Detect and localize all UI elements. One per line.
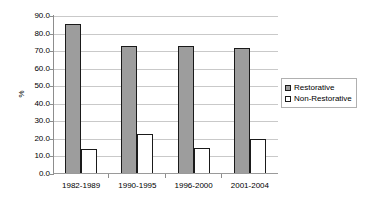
x-axis-category-label: 1982-1989 xyxy=(53,182,109,190)
legend-item[interactable]: Non-Restorative xyxy=(285,93,352,104)
x-axis-tick xyxy=(165,174,166,178)
bar-nonrestorative[interactable] xyxy=(250,139,266,174)
y-axis-tick xyxy=(49,69,54,70)
y-axis-tick xyxy=(49,16,54,17)
bar-restorative[interactable] xyxy=(178,46,194,174)
bar-nonrestorative[interactable] xyxy=(137,134,153,174)
bar-group xyxy=(109,16,165,174)
bar-restorative[interactable] xyxy=(234,48,250,174)
bar-nonrestorative[interactable] xyxy=(81,149,97,174)
legend: RestorativeNon-Restorative xyxy=(281,78,357,108)
legend-item[interactable]: Restorative xyxy=(285,82,352,93)
y-axis-tick-label: 0.0 xyxy=(20,170,50,178)
y-axis-tick-label: 60.0 xyxy=(20,65,50,73)
x-axis-baseline xyxy=(53,173,278,174)
y-axis-tick-label: 50.0 xyxy=(20,82,50,90)
legend-swatch-icon xyxy=(285,96,291,102)
bar-group xyxy=(166,16,222,174)
bar-group xyxy=(53,16,109,174)
y-axis-tick xyxy=(49,51,54,52)
legend-item-label: Non-Restorative xyxy=(294,95,352,103)
y-axis-tick xyxy=(49,121,54,122)
y-axis-tick xyxy=(49,139,54,140)
y-axis-tick-label: 10.0 xyxy=(20,152,50,160)
y-axis-tick-label: 80.0 xyxy=(20,30,50,38)
y-axis-tick xyxy=(49,86,54,87)
y-axis-tick xyxy=(49,104,54,105)
y-axis-tick-label: 30.0 xyxy=(20,117,50,125)
y-axis-tick-labels: 90.080.070.060.050.040.030.020.010.00.0 xyxy=(20,16,50,174)
x-axis-category-label: 1990-1995 xyxy=(109,182,165,190)
x-axis-category-labels: 1982-19891990-19951996-20002001-2004 xyxy=(53,182,278,190)
y-axis-tick-label: 70.0 xyxy=(20,47,50,55)
bar-group xyxy=(222,16,278,174)
bar-chart: % 90.080.070.060.050.040.030.020.010.00.… xyxy=(0,0,385,208)
y-axis-tick xyxy=(49,174,54,175)
x-axis-tick xyxy=(108,174,109,178)
bar-nonrestorative[interactable] xyxy=(194,148,210,174)
bar-restorative[interactable] xyxy=(65,24,81,174)
plot-area xyxy=(53,16,278,174)
y-axis-tick-label: 20.0 xyxy=(20,135,50,143)
y-axis-tick xyxy=(49,34,54,35)
y-axis-tick-label: 90.0 xyxy=(20,12,50,20)
y-axis-tick xyxy=(49,156,54,157)
x-axis-category-label: 1996-2000 xyxy=(166,182,222,190)
bar-restorative[interactable] xyxy=(121,46,137,174)
x-axis-tick xyxy=(221,174,222,178)
legend-swatch-icon xyxy=(285,85,291,91)
x-axis-category-label: 2001-2004 xyxy=(222,182,278,190)
bar-groups xyxy=(53,16,278,174)
legend-item-label: Restorative xyxy=(294,84,334,92)
y-axis-tick-label: 40.0 xyxy=(20,100,50,108)
